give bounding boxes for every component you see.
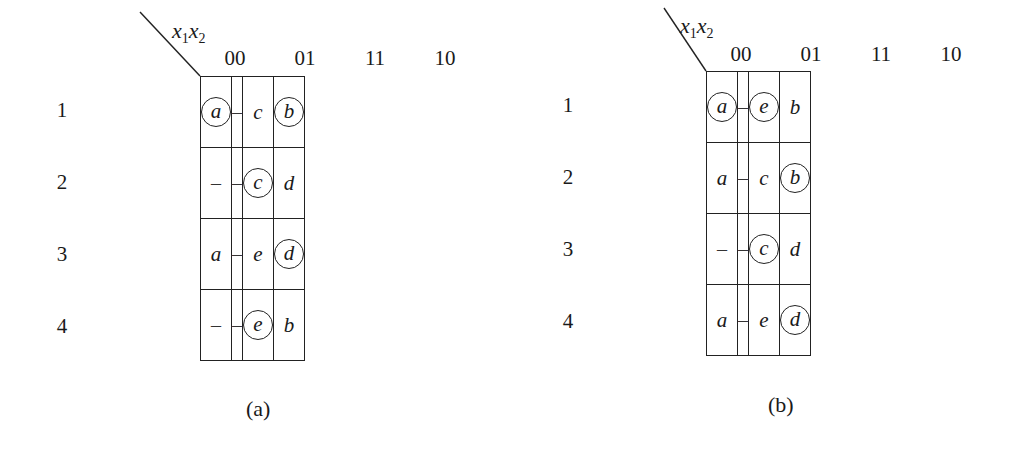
- table-row: a–cb: [707, 143, 811, 214]
- table-row: ––cd: [707, 214, 811, 285]
- var-x: x: [680, 13, 690, 38]
- table-cell: –: [738, 285, 749, 356]
- table-cell: –: [738, 214, 749, 285]
- next-state: a: [717, 308, 728, 332]
- table-cell: c: [749, 143, 780, 214]
- dont-care: –: [738, 167, 748, 189]
- diagonal-divider: [0, 0, 1034, 455]
- flow-table: a–eba–cb––cda–ed: [706, 71, 811, 356]
- table-cell: e: [749, 72, 780, 143]
- var-x: x: [697, 13, 707, 38]
- next-state: b: [790, 95, 801, 119]
- column-header: 10: [916, 42, 986, 67]
- column-header: 01: [776, 42, 846, 67]
- table-cell: a: [707, 72, 738, 143]
- next-state: e: [759, 308, 768, 332]
- column-header: 11: [846, 42, 916, 67]
- dont-care: –: [717, 238, 727, 260]
- table-cell: –: [707, 214, 738, 285]
- table-cell: a: [707, 143, 738, 214]
- table-row: a–eb: [707, 72, 811, 143]
- table-cell: d: [780, 285, 811, 356]
- column-variable-label: x1x2: [680, 13, 714, 42]
- var-sub-2: 2: [707, 26, 714, 41]
- row-number: 2: [558, 165, 578, 190]
- table-cell: e: [749, 285, 780, 356]
- caption-b: (b): [768, 392, 794, 418]
- circled-next-state: e: [749, 92, 779, 122]
- table-cell: d: [780, 214, 811, 285]
- circled-next-state: c: [749, 234, 779, 264]
- next-state: a: [717, 166, 728, 190]
- table-cell: b: [780, 72, 811, 143]
- row-number: 4: [558, 309, 578, 334]
- column-header: 00: [706, 42, 776, 67]
- table-cell: c: [749, 214, 780, 285]
- table-cell: –: [738, 143, 749, 214]
- var-sub-1: 1: [690, 26, 697, 41]
- circled-next-state: a: [707, 92, 737, 122]
- circled-next-state: b: [780, 163, 810, 193]
- table-cell: a: [707, 285, 738, 356]
- dont-care: –: [738, 238, 748, 260]
- next-state: c: [759, 166, 768, 190]
- circled-next-state: d: [780, 305, 810, 335]
- table-cell: –: [738, 72, 749, 143]
- table-cell: b: [780, 143, 811, 214]
- row-number: 3: [558, 237, 578, 262]
- dont-care: –: [738, 309, 748, 331]
- row-number: 1: [558, 93, 578, 118]
- table-row: a–ed: [707, 285, 811, 356]
- dont-care: –: [738, 96, 748, 118]
- next-state: d: [790, 237, 801, 261]
